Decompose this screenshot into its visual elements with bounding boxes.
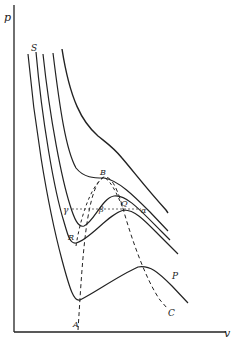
label-A: A: [72, 320, 79, 329]
y-axis-label: p: [4, 11, 11, 24]
label-alpha: α: [141, 206, 147, 215]
isotherm-5: [62, 49, 168, 213]
label-gamma: γ: [63, 205, 69, 215]
label-P: P: [171, 271, 179, 281]
label-Q: Q: [121, 199, 128, 208]
label-S: S: [31, 43, 37, 53]
label-beta: β: [98, 205, 104, 214]
label-B: B: [99, 168, 106, 177]
pv-diagram: p v S B Q β α γ R P A C: [0, 0, 236, 344]
label-R: R: [67, 233, 74, 242]
x-axis-label: v: [224, 327, 231, 340]
label-C: C: [168, 308, 175, 318]
